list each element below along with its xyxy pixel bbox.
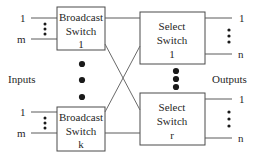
stage-dot <box>79 61 85 67</box>
port-dot <box>227 34 230 37</box>
inputs-label: Inputs <box>8 73 36 85</box>
port-dot <box>44 117 47 120</box>
stage-dot <box>79 94 85 100</box>
select-switch-r-line2: Switch <box>157 115 188 127</box>
port-dot <box>44 28 47 31</box>
input-port-ellipsis-bs1 <box>44 23 47 36</box>
port-dot <box>44 33 47 36</box>
select-stage-ellipsis <box>173 68 179 90</box>
select-switch-r-line3: r <box>170 129 174 141</box>
output-port-label-1-ssr: 1 <box>239 93 245 105</box>
switch-network-diagram: Broadcast Switch 1 Broadcast Switch k Se… <box>0 0 265 158</box>
select-switch-r-line1: Select <box>159 101 186 113</box>
output-port-label-1-ss1: 1 <box>239 12 245 24</box>
select-switch-1-line3: 1 <box>169 48 175 60</box>
stage-dot <box>173 76 179 82</box>
link-bsk-to-ss1 <box>105 46 140 112</box>
output-port-ellipsis-ss1 <box>227 28 230 43</box>
broadcast-switch-1-line3: 1 <box>78 38 84 50</box>
port-dot <box>44 127 47 130</box>
diagram-canvas: Broadcast Switch 1 Broadcast Switch k Se… <box>0 0 265 158</box>
output-port-label-n-ss1: n <box>238 48 244 60</box>
select-switch-1-line1: Select <box>159 20 186 32</box>
input-port-ellipsis-bsk <box>44 117 47 130</box>
broadcast-switch-1-line2: Switch <box>66 25 97 37</box>
port-dot <box>227 117 230 120</box>
port-dot <box>227 40 230 43</box>
broadcast-switch-k-line3: k <box>78 138 84 150</box>
output-port-label-n-ssr: n <box>238 132 244 144</box>
port-dot <box>227 28 230 31</box>
input-port-label-1-bs1: 1 <box>20 12 26 24</box>
port-dot <box>227 110 230 113</box>
output-port-ellipsis-ssr <box>227 110 230 127</box>
port-dot <box>227 124 230 127</box>
input-port-label-m-bs1: m <box>17 33 26 45</box>
broadcast-stage-ellipsis <box>79 61 85 100</box>
select-switch-1-line2: Switch <box>157 34 188 46</box>
port-dot <box>44 122 47 125</box>
broadcast-switch-k-line1: Broadcast <box>59 111 103 123</box>
stage-dot <box>79 77 85 83</box>
broadcast-switch-1-line1: Broadcast <box>59 11 103 23</box>
stage-dot <box>173 84 179 90</box>
outputs-label: Outputs <box>212 73 247 85</box>
broadcast-switch-k-line2: Switch <box>66 125 97 137</box>
port-dot <box>44 23 47 26</box>
input-port-label-1-bsk: 1 <box>20 106 26 118</box>
stage-dot <box>173 68 179 74</box>
input-port-label-m-bsk: m <box>17 127 26 139</box>
link-bs1-to-ssr <box>105 44 140 110</box>
